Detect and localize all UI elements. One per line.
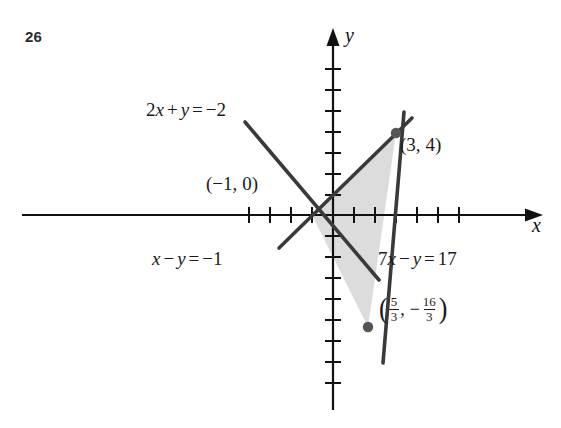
point-a-x: −1: [212, 173, 232, 194]
equation-1-var-x: x: [156, 99, 164, 120]
coordinate-plane: [0, 0, 561, 428]
equation-1-equals: =: [189, 99, 206, 120]
equation-3-op: −: [396, 248, 413, 269]
equation-1-op: +: [164, 99, 181, 120]
equation-2-rhs: −1: [202, 248, 222, 269]
point-b-comma: ,: [416, 134, 426, 155]
point-a-close-paren: ): [252, 173, 258, 194]
point-a-comma: ,: [233, 173, 243, 194]
point-c-y-denominator: 3: [424, 309, 435, 324]
point-a-y: 0: [242, 173, 252, 194]
point-label-fraction: (53,−163): [379, 295, 448, 323]
point-c-x-denominator: 3: [389, 309, 400, 324]
vertex-dot-5thirds-neg16thirds: [363, 322, 373, 332]
equation-label-2x-plus-y: 2x+y=−2: [146, 99, 226, 121]
equation-2-op: −: [160, 248, 177, 269]
point-c-y-fraction: 163: [421, 295, 438, 323]
equation-3-rhs: 17: [438, 248, 457, 269]
equation-3-equals: =: [421, 248, 438, 269]
point-c-y-numerator: 16: [421, 295, 438, 309]
point-c-comma: ,: [400, 299, 410, 320]
point-c-close-paren: ): [439, 295, 448, 324]
equation-1-coef: 2: [146, 99, 156, 120]
equation-label-x-minus-y: x−y=−1: [152, 248, 223, 270]
point-b-x: 3: [406, 134, 416, 155]
point-b-y: 4: [426, 134, 436, 155]
equation-1-var-y: y: [181, 99, 189, 120]
equation-1-rhs: −2: [206, 99, 226, 120]
equation-3-coef: 7: [378, 248, 388, 269]
point-c-x-numerator: 5: [389, 295, 400, 309]
y-axis-label: y: [345, 24, 354, 47]
figure-root: 26: [0, 0, 561, 428]
equation-3-var-x: x: [388, 248, 396, 269]
point-b-close-paren: ): [435, 134, 441, 155]
y-axis-arrow: [327, 28, 340, 46]
equation-2-var-y: y: [177, 248, 185, 269]
equation-label-7x-minus-y: 7x−y=17: [378, 248, 457, 270]
equation-2-equals: =: [186, 248, 203, 269]
x-axis-label: x: [532, 214, 541, 237]
point-label-neg1-0: (−1,0): [206, 173, 258, 195]
point-c-open-paren: (: [379, 295, 388, 324]
equation-3-var-y: y: [413, 248, 421, 269]
point-label-3-4: (3,4): [400, 134, 441, 156]
point-c-y-sign: −: [410, 299, 420, 320]
point-c-x-fraction: 53: [389, 295, 400, 323]
